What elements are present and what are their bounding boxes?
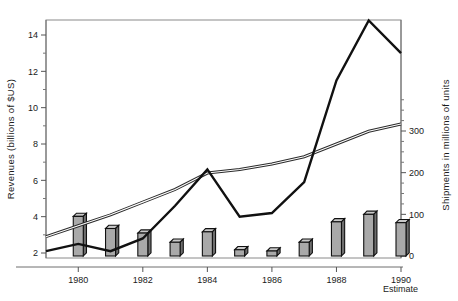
bottom-axis-tick-label: 1982 bbox=[133, 275, 153, 285]
thick-line bbox=[46, 20, 401, 251]
bottom-axis-tick-label: 1980 bbox=[68, 275, 88, 285]
bar bbox=[299, 239, 312, 256]
left-axis-tick-label: 12 bbox=[28, 67, 38, 77]
bar bbox=[331, 219, 344, 256]
chart-container: 2468101214 Revenues (billions of $US) 01… bbox=[0, 0, 458, 301]
left-axis-tick-label: 4 bbox=[33, 212, 38, 222]
bar-front-face bbox=[73, 216, 83, 256]
left-axis-title: Revenues (billions of $US) bbox=[5, 79, 16, 199]
dual-axis-chart: 2468101214 Revenues (billions of $US) 01… bbox=[0, 0, 458, 301]
right-axis-tick-label: 100 bbox=[409, 210, 424, 220]
bar-front-face bbox=[396, 223, 406, 256]
right-axis-tick-label: 200 bbox=[409, 168, 424, 178]
left-axis-tick-label: 2 bbox=[33, 248, 38, 258]
revenues-thin-line-series bbox=[46, 124, 401, 237]
bar-front-face bbox=[235, 250, 245, 256]
bar bbox=[170, 239, 183, 256]
bottom-axis: 198019821984198619881990 bbox=[16, 267, 411, 285]
bar-front-face bbox=[364, 214, 374, 256]
left-axis-tick-label: 6 bbox=[33, 176, 38, 186]
bar-front-face bbox=[331, 222, 341, 256]
bar bbox=[235, 247, 248, 256]
revenues-thick-line-series bbox=[46, 20, 401, 251]
bottom-axis-tick-label: 1986 bbox=[262, 275, 282, 285]
bar bbox=[364, 211, 377, 256]
bottom-axis-tick-label: 1984 bbox=[197, 275, 217, 285]
estimate-note: Estimate bbox=[383, 284, 418, 294]
bar-front-face bbox=[170, 242, 180, 256]
bar bbox=[73, 213, 86, 256]
left-axis: 2468101214 bbox=[28, 20, 46, 258]
bar-front-face bbox=[299, 242, 309, 256]
bar bbox=[396, 219, 409, 256]
bar bbox=[267, 248, 280, 256]
right-axis-tick-label: 0 bbox=[409, 251, 414, 261]
left-axis-tick-label: 14 bbox=[28, 30, 38, 40]
shipments-bars-series bbox=[73, 211, 409, 256]
bar-front-face bbox=[202, 232, 212, 256]
bottom-axis-tick-label: 1988 bbox=[326, 275, 346, 285]
left-axis-tick-label: 10 bbox=[28, 103, 38, 113]
right-axis-title: Shipments in millions of units bbox=[440, 79, 451, 211]
bar bbox=[202, 229, 215, 256]
bar-front-face bbox=[267, 251, 277, 256]
left-axis-tick-label: 8 bbox=[33, 139, 38, 149]
right-axis-tick-label: 300 bbox=[409, 126, 424, 136]
thin-line-outer bbox=[46, 124, 401, 237]
